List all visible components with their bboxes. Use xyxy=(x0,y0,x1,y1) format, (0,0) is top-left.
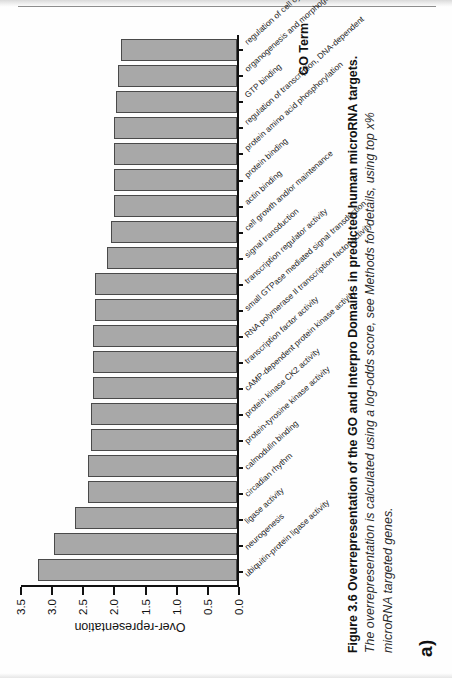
bar[interactable] xyxy=(54,533,237,555)
bar[interactable] xyxy=(88,455,237,477)
rotated-figure-stage: a) Figure 3.6 Overrepresentation of the … xyxy=(11,19,441,659)
y-axis-tick-label: 0.0 xyxy=(233,599,245,615)
y-axis-tick xyxy=(20,587,22,595)
bar[interactable] xyxy=(91,429,237,451)
bar[interactable] xyxy=(91,403,237,425)
bar[interactable] xyxy=(114,169,237,191)
y-axis-tick-label: 1.5 xyxy=(140,599,152,615)
x-label-slot: signal transduction xyxy=(241,239,317,266)
value-axis: 0.00.51.01.52.02.53.03.5Over-representat… xyxy=(21,587,239,653)
x-label-slot: small GTPase mediated signal transductio… xyxy=(241,293,317,320)
x-label-slot: RNA polymerase II transcription factor a… xyxy=(241,319,317,346)
y-axis-tick-label: 1.0 xyxy=(171,599,183,615)
bar-slot[interactable] xyxy=(21,349,237,375)
bar-slot[interactable] xyxy=(21,167,237,193)
bar-slot[interactable] xyxy=(21,479,237,505)
y-axis-tick-label: 0.5 xyxy=(202,599,214,615)
bar-slot[interactable] xyxy=(21,271,237,297)
figure-caption: Figure 3.6 Overrepresentation of the GO … xyxy=(345,53,398,653)
panel-letter: a) xyxy=(415,639,437,657)
bar[interactable] xyxy=(95,299,237,321)
bar-slot[interactable] xyxy=(21,219,237,245)
y-axis-tick xyxy=(82,587,84,595)
x-label-slot: protein kinase CK2 activity xyxy=(241,399,317,426)
x-label-slot: calmodulin binding xyxy=(241,452,317,479)
y-axis-tick xyxy=(238,587,240,595)
bar[interactable] xyxy=(93,325,237,347)
x-label-slot: cAMP-dependent protein kinase activity xyxy=(241,372,317,399)
bar[interactable] xyxy=(93,351,237,373)
bar-series xyxy=(21,35,237,585)
bar-slot[interactable] xyxy=(21,89,237,115)
bar-slot[interactable] xyxy=(21,323,237,349)
x-label-slot: neurogenesis xyxy=(241,532,317,559)
y-axis-tick-label: 2.0 xyxy=(108,599,120,615)
x-label-slot: protein-tyrosine kinase activity xyxy=(241,426,317,453)
caption-title: Overrepresentation of the GO and Interpr… xyxy=(346,56,360,591)
bar[interactable] xyxy=(75,507,237,529)
plot-area xyxy=(21,35,239,587)
bar-chart: 0.00.51.01.52.02.53.03.5Over-representat… xyxy=(17,25,317,653)
bar[interactable] xyxy=(114,143,237,165)
page-header-rule xyxy=(18,6,436,7)
bar[interactable] xyxy=(95,273,237,295)
scan-edge-bottom xyxy=(0,673,452,678)
bar[interactable] xyxy=(114,195,237,217)
bar[interactable] xyxy=(116,91,237,113)
bar[interactable] xyxy=(38,559,237,581)
x-label-slot: cell growth and/or maintenance xyxy=(241,213,317,240)
bar-slot[interactable] xyxy=(21,37,237,63)
x-label-slot: transcription factor activity xyxy=(241,346,317,373)
y-axis-tick xyxy=(113,587,115,595)
bar[interactable] xyxy=(118,65,237,87)
x-axis-title: GO Term xyxy=(297,23,311,76)
bar[interactable] xyxy=(88,481,237,503)
bar-slot[interactable] xyxy=(21,245,237,271)
bar-slot[interactable] xyxy=(21,453,237,479)
bar-slot[interactable] xyxy=(21,531,237,557)
bar[interactable] xyxy=(121,39,237,61)
x-label-slot: ligase activity xyxy=(241,505,317,532)
y-axis-tick-label: 3.5 xyxy=(15,599,27,615)
bar[interactable] xyxy=(114,117,237,139)
y-axis-tick xyxy=(145,587,147,595)
x-label-slot: ubiquitin-protein ligase activity xyxy=(241,558,317,585)
caption-description: The overrepresentation is calculated usi… xyxy=(363,112,395,653)
y-axis-tick xyxy=(176,587,178,595)
caption-figure-label: Figure 3.6 xyxy=(346,594,360,653)
bar[interactable] xyxy=(107,247,237,269)
y-axis-title: Over-representation xyxy=(30,620,230,634)
y-axis-tick xyxy=(207,587,209,595)
bar-slot[interactable] xyxy=(21,193,237,219)
x-label-slot: GTP binding xyxy=(241,80,317,107)
x-label-slot: protein binding xyxy=(241,160,317,187)
bar-slot[interactable] xyxy=(21,115,237,141)
bar-slot[interactable] xyxy=(21,505,237,531)
bar-slot[interactable] xyxy=(21,557,237,583)
x-label-slot: transcription regulator activity xyxy=(241,266,317,293)
x-label-slot: protein amino acid phosphorylation xyxy=(241,133,317,160)
bar-slot[interactable] xyxy=(21,63,237,89)
bar-slot[interactable] xyxy=(21,141,237,167)
bar-slot[interactable] xyxy=(21,427,237,453)
bar-slot[interactable] xyxy=(21,401,237,427)
x-label-slot: circadian rhythm xyxy=(241,479,317,506)
y-axis-tick-label: 3.0 xyxy=(46,599,58,615)
category-axis-labels: ubiquitin-protein ligase activityneuroge… xyxy=(241,25,317,587)
bar-slot[interactable] xyxy=(21,375,237,401)
bar[interactable] xyxy=(93,377,237,399)
y-axis-tick-label: 2.5 xyxy=(77,599,89,615)
bar[interactable] xyxy=(111,221,238,243)
y-axis-tick xyxy=(51,587,53,595)
bar-slot[interactable] xyxy=(21,297,237,323)
x-label-slot: regulation of transcription, DNA-depende… xyxy=(241,107,317,134)
x-label-slot: actin binding xyxy=(241,186,317,213)
